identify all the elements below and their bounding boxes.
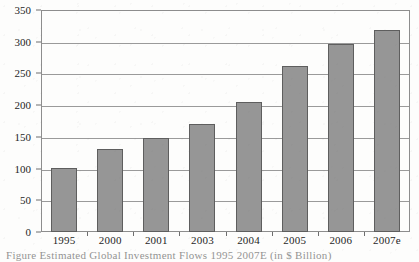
bar-2007e: [374, 30, 400, 232]
bar-2006: [328, 44, 354, 232]
y-axis-tick-marks: [0, 10, 41, 232]
bar-series: [41, 10, 410, 232]
bar-2001: [143, 138, 169, 232]
x-axis-tick-label: 2005: [283, 234, 306, 246]
bar-2000: [97, 149, 123, 232]
scanned-page: 050100150200250300350 199520002001200320…: [0, 0, 419, 262]
x-axis-tick-label: 1995: [53, 234, 76, 246]
bar-2005: [282, 66, 308, 232]
bar-chart: 050100150200250300350 199520002001200320…: [0, 0, 419, 244]
x-axis-labels: 19952000200120032004200520062007e: [41, 234, 410, 250]
x-axis-tick-label: 2000: [99, 234, 122, 246]
bar-2004: [236, 102, 262, 232]
x-axis-tick-label: 2001: [145, 234, 168, 246]
bar-1995: [51, 168, 77, 232]
x-axis-tick-label: 2007e: [373, 234, 401, 246]
caption-text: Figure Estimated Global Investment Flows…: [6, 252, 332, 261]
bar-2003: [189, 124, 215, 232]
x-axis-tick-label: 2006: [329, 234, 352, 246]
x-axis-tick-label: 2004: [237, 234, 260, 246]
x-axis-tick-label: 2003: [191, 234, 214, 246]
clipped-caption: Figure Estimated Global Investment Flows…: [0, 252, 419, 262]
